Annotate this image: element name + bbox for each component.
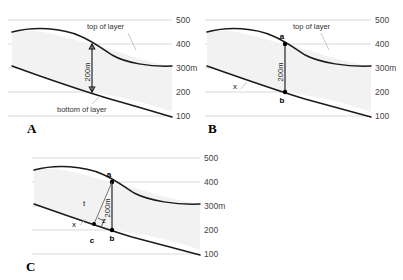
panel-c-layer-body bbox=[34, 169, 200, 250]
panel-c-axis-tick-100: 100 bbox=[204, 249, 218, 259]
panel-a-bottom-annotation: bottom of layer bbox=[57, 96, 107, 114]
panel-c-axis-tick-500: 500 bbox=[204, 153, 218, 163]
panel-a-bottom-of-layer-label: bottom of layer bbox=[57, 105, 107, 114]
panel-b-axis-tick-500: 500 bbox=[375, 15, 389, 25]
panel-b-axis-tick-200: 200 bbox=[375, 87, 389, 97]
panel-b-point-b-dot bbox=[283, 90, 287, 94]
panel-c-letter: C bbox=[26, 259, 35, 274]
panel-b-point-b-label: b bbox=[280, 96, 285, 105]
panel-b-angle-x-label: x bbox=[233, 82, 237, 91]
panel-c-thickness-label: 200m bbox=[103, 199, 112, 218]
panel-a-letter: A bbox=[27, 121, 37, 136]
panel-c-point-b-dot bbox=[110, 228, 114, 232]
panel-a-axis-tick-400: 400 bbox=[176, 39, 190, 49]
panel-c-point-c-label: c bbox=[90, 236, 95, 245]
figure-root: 200m top of layer bottom of layer 500 40… bbox=[0, 0, 403, 280]
panel-c-axis-labels: 500 400 300m 200 100 bbox=[204, 153, 225, 259]
panel-b-point-a-label: a bbox=[280, 32, 285, 41]
panel-b-dip-angle: x bbox=[233, 82, 247, 91]
panel-b-top-annotation: top of layer bbox=[293, 22, 331, 50]
panel-c-axis-tick-200: 200 bbox=[204, 225, 218, 235]
panel-a-axis-labels: 500 400 300m 200 100 bbox=[176, 15, 197, 121]
panel-c-point-c-dot bbox=[92, 222, 96, 226]
panel-b-letter: B bbox=[208, 121, 217, 136]
panel-a-axis-tick-500: 500 bbox=[176, 15, 190, 25]
panel-b-axis-tick-300: 300m bbox=[375, 63, 396, 73]
panel-b-top-of-layer-label: top of layer bbox=[293, 22, 331, 31]
panel-b-axis-labels: 500 400 300m 200 100 bbox=[375, 15, 396, 121]
panel-b-axis-tick-400: 400 bbox=[375, 39, 389, 49]
panel-c: 200m t z a b c x 500 400 300m 200 100 C bbox=[18, 142, 248, 280]
panel-a-axis-tick-300: 300m bbox=[176, 63, 197, 73]
panel-c-point-b-label: b bbox=[110, 234, 115, 243]
panel-c-axis-tick-400: 400 bbox=[204, 177, 218, 187]
panel-b-layer-body bbox=[207, 31, 371, 112]
panel-b-point-a-dot bbox=[283, 42, 287, 46]
panel-a-axis-tick-200: 200 bbox=[176, 87, 190, 97]
panel-b-thickness-label: 200m bbox=[276, 63, 285, 82]
panel-a: 200m top of layer bottom of layer 500 40… bbox=[0, 0, 200, 140]
panel-a-axis-tick-100: 100 bbox=[176, 111, 190, 121]
panel-c-point-a-label: a bbox=[107, 170, 112, 179]
panel-a-thickness-label: 200m bbox=[83, 63, 92, 82]
panel-a-top-of-layer-label: top of layer bbox=[87, 22, 125, 31]
panel-c-axis-tick-300: 300m bbox=[204, 201, 225, 211]
panel-c-segment-z-label: z bbox=[102, 216, 106, 225]
panel-c-angle-x-label: x bbox=[72, 220, 76, 229]
panel-b: 200m a b x top of layer 500 400 300m 200… bbox=[201, 0, 403, 140]
panel-b-axis-tick-100: 100 bbox=[375, 111, 389, 121]
